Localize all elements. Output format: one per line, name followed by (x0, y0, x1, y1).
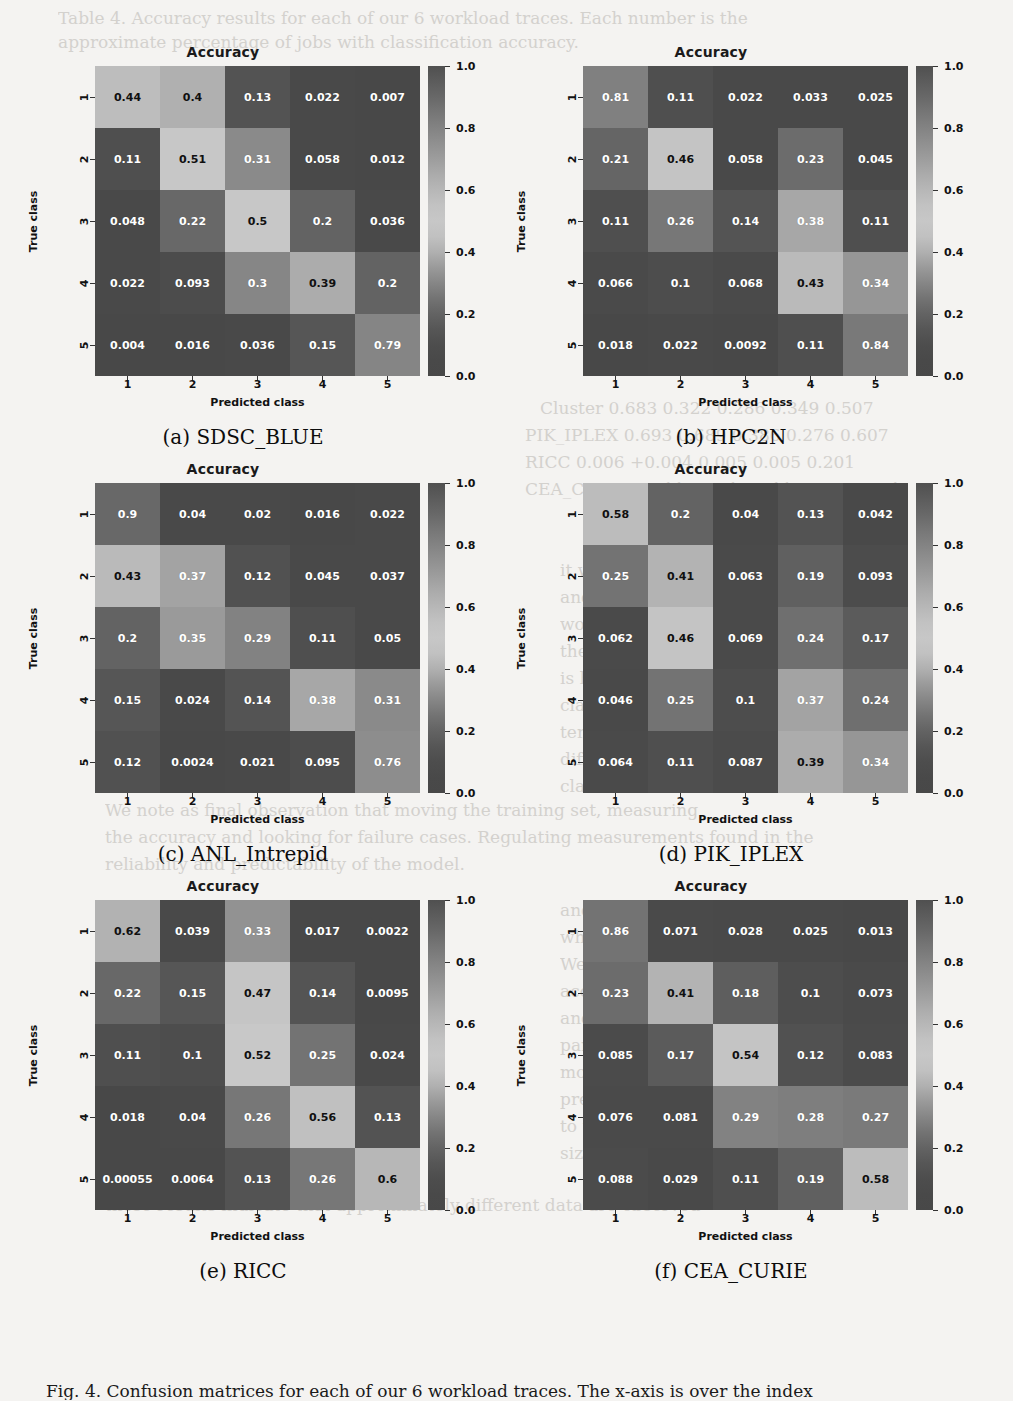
heatmap-cell: 0.37 (778, 669, 843, 731)
y-tick-text: 5 (567, 341, 580, 349)
heatmap-cell-value: 0.25 (667, 694, 694, 707)
heatmap-cell: 0.43 (778, 252, 843, 314)
panel-caption-d: (d) PIK_IPLEX (496, 842, 966, 866)
heatmap-cell: 0.6 (355, 1148, 420, 1210)
y-tick-text: 2 (79, 989, 92, 997)
heatmap-cell-value: 0.022 (305, 91, 340, 104)
colorbar-tick-label: 0.0 (944, 1204, 964, 1217)
y-tick-text: 3 (567, 634, 580, 642)
heatmap-cell-value: 0.028 (728, 925, 763, 938)
heatmap-cell-value: 0.1 (801, 987, 821, 1000)
y-tick-label: 5 (555, 1148, 577, 1210)
heatmap-cell-value: 0.024 (175, 694, 210, 707)
y-tick-label: 3 (555, 1024, 577, 1086)
x-tick-label: 4 (290, 795, 355, 813)
heatmap-cell-value: 0.76 (374, 756, 401, 769)
heatmap-cell-value: 0.18 (732, 987, 759, 1000)
colorbar-tick-label: 0.2 (944, 1142, 964, 1155)
x-tick-label: 2 (648, 795, 713, 813)
y-tick-label: 5 (555, 314, 577, 376)
heatmap-cell-value: 0.27 (862, 1111, 889, 1124)
y-tick-text: 3 (79, 217, 92, 225)
heatmap-plot-area: 0.580.20.040.130.0420.250.410.0630.190.0… (583, 483, 908, 793)
heatmap-cell: 0.52 (225, 1024, 290, 1086)
colorbar-tick-mark (445, 793, 450, 794)
ghost-text: Table 4. Accuracy results for each of ou… (58, 8, 748, 28)
x-tick-label: 2 (160, 795, 225, 813)
heatmap-cell-value: 0.9 (118, 508, 138, 521)
heatmap-cell-value: 0.042 (858, 508, 893, 521)
x-tick-label: 2 (648, 1212, 713, 1230)
heatmap-plot-area: 0.440.40.130.0220.0070.110.510.310.0580.… (95, 66, 420, 376)
heatmap-cell-value: 0.79 (374, 339, 401, 352)
heatmap-cell-value: 0.39 (309, 277, 336, 290)
confusion-matrix-panel-b: AccuracyTrue class123450.810.110.0220.03… (496, 40, 966, 455)
heatmap-cell: 0.28 (778, 1086, 843, 1148)
colorbar-tick-label: 1.0 (456, 60, 476, 73)
heatmap-cell-value: 0.0024 (171, 756, 213, 769)
heatmap-cell: 0.26 (225, 1086, 290, 1148)
colorbar-tick-label: 0.4 (456, 246, 476, 259)
heatmap-cell: 0.0095 (355, 962, 420, 1024)
heatmap-cell: 0.37 (160, 545, 225, 607)
heatmap-cell-value: 0.41 (667, 987, 694, 1000)
x-tick-label: 5 (843, 1212, 908, 1230)
y-tick-label: 1 (555, 483, 577, 545)
heatmap-cell-value: 0.86 (602, 925, 629, 938)
heatmap-cell-value: 0.036 (240, 339, 275, 352)
colorbar-tick-mark (933, 1210, 938, 1211)
y-axis-label-text: True class (516, 1024, 529, 1086)
panel-title: Accuracy (496, 44, 926, 60)
heatmap-cell-value: 0.037 (370, 570, 405, 583)
heatmap-cell: 0.81 (583, 66, 648, 128)
heatmap-cell: 0.11 (290, 607, 355, 669)
y-tick-text: 4 (79, 696, 92, 704)
heatmap-cell-value: 0.045 (858, 153, 893, 166)
colorbar-tick-label: 1.0 (944, 477, 964, 490)
heatmap-cell: 0.024 (160, 669, 225, 731)
heatmap-cell: 0.045 (843, 128, 908, 190)
heatmap-cell-value: 0.11 (114, 1049, 141, 1062)
x-tick-label: 4 (778, 1212, 843, 1230)
heatmap-plot-area: 0.90.040.020.0160.0220.430.370.120.0450.… (95, 483, 420, 793)
heatmap-cell-value: 0.2 (313, 215, 333, 228)
heatmap-cell: 0.04 (160, 483, 225, 545)
y-tick-label: 2 (555, 128, 577, 190)
heatmap-plot-area: 0.860.0710.0280.0250.0130.230.410.180.10… (583, 900, 908, 1210)
heatmap-cell-value: 0.37 (179, 570, 206, 583)
heatmap-cell: 0.62 (95, 900, 160, 962)
heatmap-cell: 0.17 (843, 607, 908, 669)
colorbar-tick-label: 0.8 (944, 539, 964, 552)
y-tick-label: 4 (555, 1086, 577, 1148)
x-tick-label: 1 (583, 378, 648, 396)
confusion-matrix-panel-e: AccuracyTrue class123450.620.0390.330.01… (8, 874, 478, 1289)
heatmap-cell-value: 0.036 (370, 215, 405, 228)
colorbar-tick-label: 0.0 (456, 370, 476, 383)
y-tick-label: 5 (555, 731, 577, 793)
heatmap-cell: 0.028 (713, 900, 778, 962)
heatmap-grid: 0.860.0710.0280.0250.0130.230.410.180.10… (583, 900, 908, 1210)
heatmap-cell-value: 0.00055 (102, 1173, 152, 1186)
heatmap-cell: 0.004 (95, 314, 160, 376)
x-tick-label: 3 (225, 378, 290, 396)
heatmap-cell-value: 0.095 (305, 756, 340, 769)
colorbar (916, 66, 933, 376)
heatmap-cell-value: 0.24 (862, 694, 889, 707)
y-tick-text: 1 (79, 510, 92, 518)
heatmap-cell: 0.058 (290, 128, 355, 190)
heatmap-cell: 0.083 (843, 1024, 908, 1086)
heatmap-cell-value: 0.018 (598, 339, 633, 352)
heatmap-cell-value: 0.19 (797, 1173, 824, 1186)
x-tick-label: 4 (290, 378, 355, 396)
heatmap-cell: 0.11 (713, 1148, 778, 1210)
colorbar-tick-label: 0.2 (456, 308, 476, 321)
heatmap-cell-value: 0.22 (179, 215, 206, 228)
y-tick-text: 5 (79, 341, 92, 349)
heatmap-cell: 0.12 (95, 731, 160, 793)
x-tick-label: 1 (583, 1212, 648, 1230)
colorbar (428, 66, 445, 376)
heatmap-cell: 0.058 (713, 128, 778, 190)
heatmap-cell: 0.39 (290, 252, 355, 314)
heatmap-cell: 0.066 (583, 252, 648, 314)
heatmap-cell: 0.0092 (713, 314, 778, 376)
